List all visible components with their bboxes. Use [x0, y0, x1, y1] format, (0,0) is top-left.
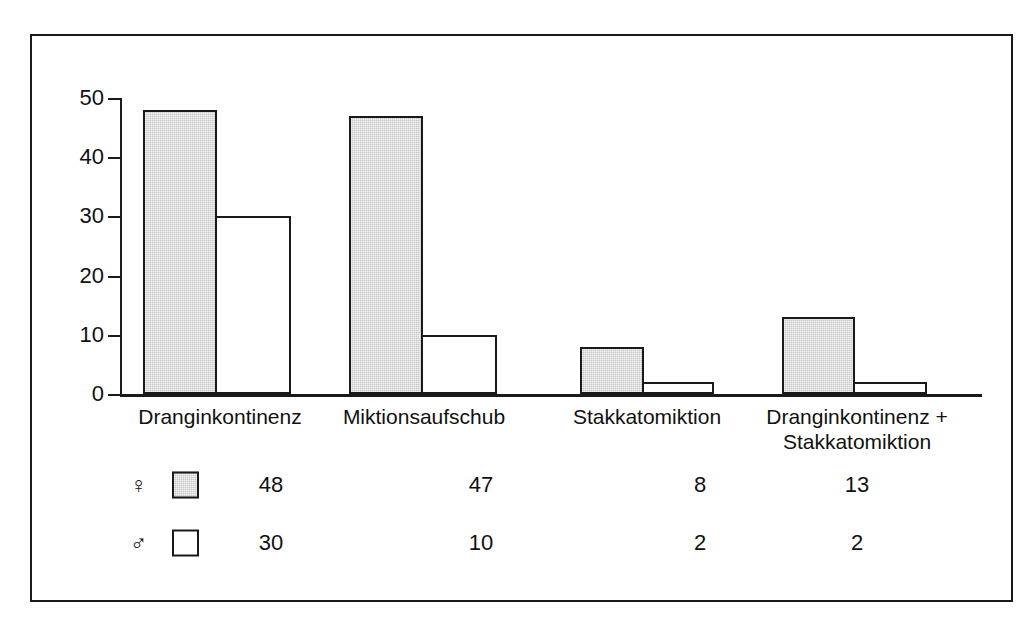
y-axis-spine [120, 98, 122, 394]
mars-symbol: ♂ [130, 532, 147, 555]
x-axis-spine [120, 394, 982, 397]
figure-frame: n 50 40 30 20 10 0 [30, 34, 1013, 602]
legend-swatch-male [172, 530, 199, 557]
y-tick-label: 20 [80, 265, 104, 287]
y-tick-label: 10 [80, 324, 104, 346]
legend-row-male: ♂ 30 10 2 2 [120, 522, 982, 564]
legend-value-male-1: 30 [226, 532, 316, 554]
legend-value-male-3: 2 [655, 532, 745, 554]
bar-female-miktionsaufschub [349, 116, 423, 394]
legend-value-female-4: 13 [812, 474, 902, 496]
category-label-4: Dranginkontinenz + Stakkatomiktion [754, 404, 960, 454]
y-tick-label: 0 [92, 383, 104, 405]
y-tick-label: 30 [80, 205, 104, 227]
category-label-1: Dranginkontinenz [130, 404, 310, 429]
legend-row-female: ♀ 48 47 8 13 [120, 464, 982, 506]
legend-value-male-4: 2 [812, 532, 902, 554]
tick-mark [108, 157, 120, 159]
tick-mark [108, 335, 120, 337]
category-label-2: Miktionsaufschub [334, 404, 514, 429]
tick-mark [108, 276, 120, 278]
bar-male-miktionsaufschub [421, 335, 497, 394]
bar-male-stakkatomiktion [642, 382, 714, 394]
bar-female-dranginkontinenz-plus-stakkatomiktion [782, 317, 855, 394]
legend-value-male-2: 10 [436, 532, 526, 554]
tick-mark [108, 98, 120, 100]
plot-area: n 50 40 30 20 10 0 [120, 98, 982, 394]
tick-mark [108, 394, 120, 396]
legend-value-female-3: 8 [655, 474, 745, 496]
bar-male-dranginkontinenz [215, 216, 291, 394]
legend-value-female-1: 48 [226, 474, 316, 496]
category-label-3: Stakkatomiktion [562, 404, 732, 429]
legend: ♀ 48 47 8 13 ♂ 30 10 2 2 [120, 464, 982, 564]
tick-mark [108, 216, 120, 218]
bar-female-dranginkontinenz [143, 110, 217, 394]
legend-swatch-female [172, 472, 199, 499]
venus-symbol: ♀ [130, 474, 147, 497]
y-tick-label: 50 [80, 87, 104, 109]
legend-value-female-2: 47 [436, 474, 526, 496]
bar-female-stakkatomiktion [580, 347, 644, 394]
y-tick-label: 40 [80, 146, 104, 168]
bar-male-dranginkontinenz-plus-stakkatomiktion [853, 382, 927, 394]
